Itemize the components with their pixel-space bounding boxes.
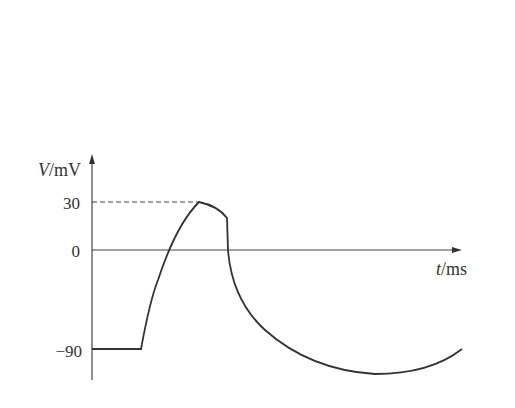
y-tick-30: 30 bbox=[63, 194, 80, 213]
x-axis-label: t/ms bbox=[436, 259, 467, 279]
x-axis-arrow-icon bbox=[452, 247, 462, 253]
action-potential-chart: 30 0 −90 V/mV t/ms bbox=[0, 0, 515, 408]
chart-figure: 30 0 −90 V/mV t/ms bbox=[0, 0, 515, 408]
y-axis-label: V/mV bbox=[38, 160, 81, 180]
action-potential-curve bbox=[92, 202, 462, 374]
y-axis-arrow-icon bbox=[89, 154, 95, 164]
y-tick-neg90: −90 bbox=[55, 342, 82, 361]
y-tick-0: 0 bbox=[72, 242, 81, 261]
